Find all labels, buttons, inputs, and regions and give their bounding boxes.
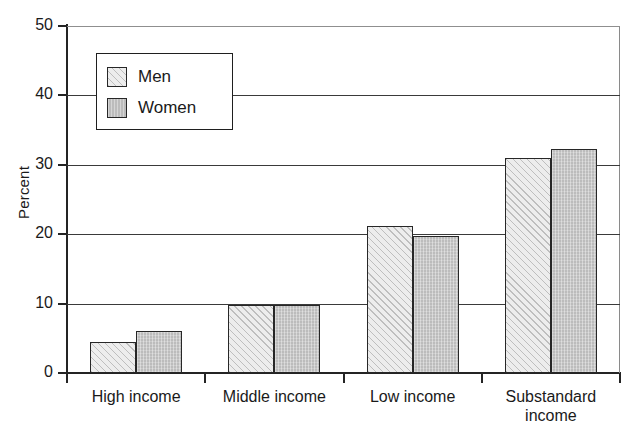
x-tick-3 <box>481 374 483 383</box>
legend-swatch-women-icon <box>107 98 127 118</box>
category-label-line: High income <box>57 387 215 406</box>
bar-men-high-income <box>90 342 136 373</box>
bar-men-substandard-income <box>505 158 551 373</box>
legend-item-men: Men <box>107 61 232 92</box>
category-label-line: Low income <box>334 387 492 406</box>
x-tick-4 <box>619 374 621 383</box>
x-tick-1 <box>204 374 206 383</box>
legend-swatch-men-icon <box>107 67 127 87</box>
bar-men-middle-income <box>228 305 274 373</box>
y-tick-label-30: 30 <box>19 156 53 172</box>
bar-women-high-income <box>136 331 182 373</box>
bar-women-low-income <box>413 236 459 373</box>
bar-women-middle-income <box>274 305 320 373</box>
y-tick-label-20: 20 <box>19 225 53 241</box>
category-label-high-income: High income <box>57 387 215 406</box>
category-label-middle-income: Middle income <box>195 387 353 406</box>
category-label-line: Middle income <box>195 387 353 406</box>
category-label-line: income <box>472 406 630 425</box>
bar-chart-figure: Percent 01020304050 High incomeMiddle in… <box>0 0 637 435</box>
y-tick-label-40: 40 <box>19 86 53 102</box>
bar-women-substandard-income <box>551 149 597 373</box>
bar-men-low-income <box>367 226 413 373</box>
x-tick-2 <box>343 374 345 383</box>
legend-label-men: Men <box>138 67 171 87</box>
y-tick-label-10: 10 <box>19 295 53 311</box>
y-tick-label-50: 50 <box>19 17 53 33</box>
category-label-low-income: Low income <box>334 387 492 406</box>
category-label-line: Substandard <box>472 387 630 406</box>
x-tick-0 <box>66 374 68 383</box>
legend-label-women: Women <box>138 98 196 118</box>
y-tick-label-0: 0 <box>19 364 53 380</box>
category-label-substandard-income: Substandardincome <box>472 387 630 425</box>
legend: Men Women <box>96 53 233 130</box>
legend-item-women: Women <box>107 92 232 123</box>
